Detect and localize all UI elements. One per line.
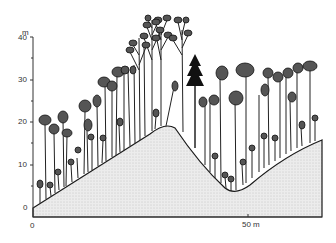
y-tick-40: 40 xyxy=(18,34,27,42)
x-tick-0: 0 xyxy=(30,222,34,230)
y-tick-10: 10 xyxy=(18,161,27,169)
y-tick-0: 0 xyxy=(23,204,27,212)
y-tick-30: 30 xyxy=(18,76,27,84)
profile-drawing xyxy=(0,0,336,243)
forest-profile-diagram: m 40 30 20 10 0 0 50 m xyxy=(0,0,336,243)
x-tick-50m: 50 m xyxy=(242,221,260,229)
ground-profile xyxy=(33,126,322,217)
y-tick-20: 20 xyxy=(18,118,27,126)
